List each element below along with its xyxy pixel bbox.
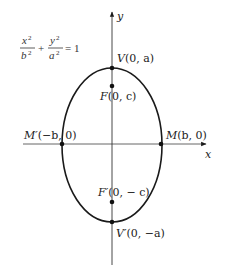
- svg-text:F(0, c): F(0, c): [99, 90, 136, 103]
- eq-equals-one: = 1: [65, 42, 79, 54]
- y-axis-label: y: [116, 10, 124, 23]
- vertex-v-prime-dot: [110, 220, 115, 225]
- label-m-prime-name: M′: [23, 129, 38, 142]
- eq-term2-numerator: y: [49, 34, 55, 46]
- svg-text:V′(0, −a): V′(0, −a): [116, 227, 165, 240]
- minor-vertex-m-dot: [159, 142, 164, 147]
- svg-text:M′(−b, 0): M′(−b, 0): [23, 129, 77, 142]
- label-m-prime-coords: (−b, 0): [38, 129, 77, 142]
- label-v-prime: V′(0, −a): [116, 227, 165, 240]
- label-v-prime-name: V′: [116, 227, 127, 240]
- eq-term1-num-exponent: 2: [28, 34, 32, 42]
- eq-plus: +: [38, 42, 44, 54]
- label-m-prime: M′(−b, 0): [23, 129, 77, 142]
- label-f-name: F: [99, 90, 108, 103]
- eq-term2-denominator: a: [49, 49, 55, 61]
- svg-text:V(0, a): V(0, a): [117, 52, 154, 65]
- minor-vertex-m-prime-dot: [60, 142, 65, 147]
- label-v: V(0, a): [117, 52, 154, 65]
- label-f-prime-coords: (0, − c): [108, 186, 149, 199]
- x-axis-label: x: [205, 148, 212, 161]
- vertex-v-dot: [110, 66, 115, 71]
- label-f: F(0, c): [99, 90, 136, 103]
- label-f-coords: (0, c): [108, 90, 137, 103]
- label-m-coords: (b, 0): [177, 129, 207, 142]
- svg-text:M(b, 0): M(b, 0): [165, 129, 207, 142]
- ellipse-diagram: x 2 b 2 + y 2 a 2 = 1 x y V(0, a) F(0, c…: [0, 0, 225, 274]
- svg-text:F′(0, − c): F′(0, − c): [97, 186, 150, 199]
- eq-term1-den-exponent: 2: [28, 49, 32, 57]
- label-m-name: M: [165, 129, 178, 142]
- ellipse-equation: x 2 b 2 + y 2 a 2 = 1: [20, 34, 79, 61]
- label-m: M(b, 0): [165, 129, 207, 142]
- label-f-prime-name: F′: [97, 186, 109, 199]
- eq-term1-denominator: b: [21, 49, 27, 61]
- eq-term1-numerator: x: [21, 34, 27, 46]
- label-v-coords: (0, a): [125, 52, 154, 65]
- eq-term2-den-exponent: 2: [56, 49, 60, 57]
- label-f-prime: F′(0, − c): [97, 186, 150, 199]
- label-v-prime-coords: (0, −a): [126, 227, 164, 240]
- eq-term2-num-exponent: 2: [56, 34, 60, 42]
- focus-f-dot: [110, 84, 115, 89]
- focus-f-prime-dot: [110, 200, 115, 205]
